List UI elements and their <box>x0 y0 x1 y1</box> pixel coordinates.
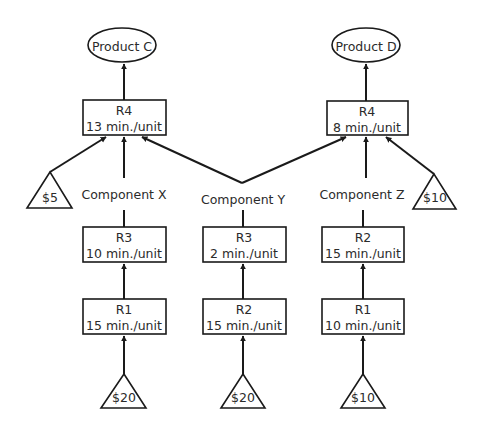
resource-name: R2 <box>355 230 372 245</box>
resource-time: 15 min./unit <box>206 318 282 333</box>
resource-name: R4 <box>359 104 376 119</box>
material-price: $10 <box>351 390 375 405</box>
resource-r2-z: R2 15 min./unit <box>322 227 404 262</box>
resource-r4-left: R4 13 min./unit <box>83 100 166 135</box>
resource-r3-x: R3 10 min./unit <box>83 227 166 262</box>
product-c-node: Product C <box>88 28 156 62</box>
resource-r3-y: R3 2 min./unit <box>203 227 286 262</box>
product-d-node: Product D <box>332 28 400 62</box>
product-d-label: Product D <box>335 39 396 54</box>
component-z-label: Component Z <box>319 187 404 202</box>
resource-name: R1 <box>116 302 133 317</box>
edge-component-y-to-r4-right <box>242 137 346 183</box>
material-triangle-raw-x: $20 <box>101 374 146 408</box>
resource-time: 10 min./unit <box>325 318 401 333</box>
resource-name: R2 <box>236 302 253 317</box>
product-c-label: Product C <box>92 39 152 54</box>
material-price: $20 <box>112 390 136 405</box>
component-x-label: Component X <box>81 187 167 202</box>
edge-5-to-r4-left <box>50 137 106 172</box>
material-price: $5 <box>42 190 58 205</box>
material-triangle-5: $5 <box>27 172 72 208</box>
resource-r4-right: R4 8 min./unit <box>327 101 408 135</box>
resource-time: 2 min./unit <box>210 246 278 261</box>
edge-component-y-to-r4-left <box>142 137 242 183</box>
resource-name: R3 <box>236 230 253 245</box>
material-price: $10 <box>423 190 447 205</box>
resource-time: 8 min./unit <box>333 120 401 135</box>
resource-time: 15 min./unit <box>86 318 162 333</box>
resource-time: 10 min./unit <box>86 246 162 261</box>
resource-r1-x: R1 15 min./unit <box>83 299 166 334</box>
product-flow-diagram: Product C Product D R4 13 min./unit R4 8… <box>0 0 479 441</box>
resource-r2-y: R2 15 min./unit <box>203 299 286 334</box>
material-triangle-raw-y: $20 <box>221 374 265 408</box>
resource-name: R3 <box>116 230 133 245</box>
resource-time: 13 min./unit <box>86 119 162 134</box>
component-y-label: Component Y <box>201 192 286 207</box>
material-triangle-raw-z: $10 <box>341 374 385 408</box>
resource-name: R1 <box>355 302 372 317</box>
resource-name: R4 <box>116 103 133 118</box>
resource-time: 15 min./unit <box>325 246 401 261</box>
resource-r1-z: R1 10 min./unit <box>322 299 404 334</box>
material-price: $20 <box>231 390 255 405</box>
material-triangle-10-right: $10 <box>413 174 456 209</box>
edge-10-to-r4-right <box>386 137 434 174</box>
